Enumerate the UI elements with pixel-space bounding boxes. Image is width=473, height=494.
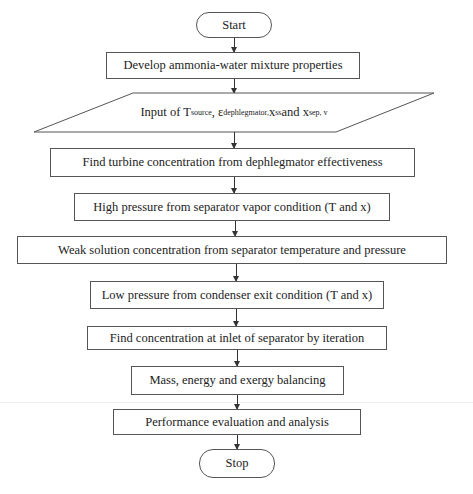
input-text-eps: , ε bbox=[212, 105, 224, 120]
arrow-step2-to-step3 bbox=[234, 177, 235, 193]
step-label: Mass, energy and exergy balancing bbox=[149, 373, 325, 388]
step-balancing: Mass, energy and exergy balancing bbox=[131, 366, 344, 395]
step-label: Weak solution concentration from separat… bbox=[58, 243, 406, 258]
step-low-pressure: Low pressure from condenser exit conditi… bbox=[90, 281, 384, 309]
step-label: Find concentration at inlet of separator… bbox=[110, 331, 364, 346]
stop-label: Stop bbox=[226, 456, 249, 471]
step-weak-solution: Weak solution concentration from separat… bbox=[17, 236, 447, 264]
arrow-step5-to-step6 bbox=[236, 309, 237, 326]
step-high-pressure: High pressure from separator vapor condi… bbox=[74, 193, 390, 221]
arrow-step7-to-step8 bbox=[237, 395, 238, 409]
input-sub-source: source bbox=[191, 108, 212, 117]
input-label: Input of Tsource, εdephlegmator, xss and… bbox=[34, 93, 434, 132]
step-label: Performance evaluation and analysis bbox=[145, 415, 329, 430]
arrow-step3-to-step4 bbox=[235, 221, 236, 236]
step-performance-evaluation: Performance evaluation and analysis bbox=[113, 409, 361, 435]
input-sub-dephlegmator: dephlegmator, bbox=[223, 108, 269, 117]
arrow-step8-to-stop bbox=[237, 435, 238, 449]
arrow-input-to-step2 bbox=[234, 132, 235, 148]
arrow-step4-to-step5 bbox=[236, 264, 237, 281]
step-label: Low pressure from condenser exit conditi… bbox=[102, 288, 373, 303]
input-sub-sep-v: sep, v bbox=[309, 108, 328, 117]
arrow-step6-to-step7 bbox=[237, 350, 238, 366]
step-label: Find turbine concentration from dephlegm… bbox=[82, 155, 382, 170]
step-inlet-concentration: Find concentration at inlet of separator… bbox=[87, 326, 387, 350]
input-text-and-x: and x bbox=[281, 105, 308, 120]
step-label: High pressure from separator vapor condi… bbox=[93, 200, 370, 215]
stop-terminal: Stop bbox=[199, 449, 275, 478]
step-turbine-concentration: Find turbine concentration from dephlegm… bbox=[50, 148, 415, 177]
input-text-t: Input of T bbox=[140, 105, 190, 120]
